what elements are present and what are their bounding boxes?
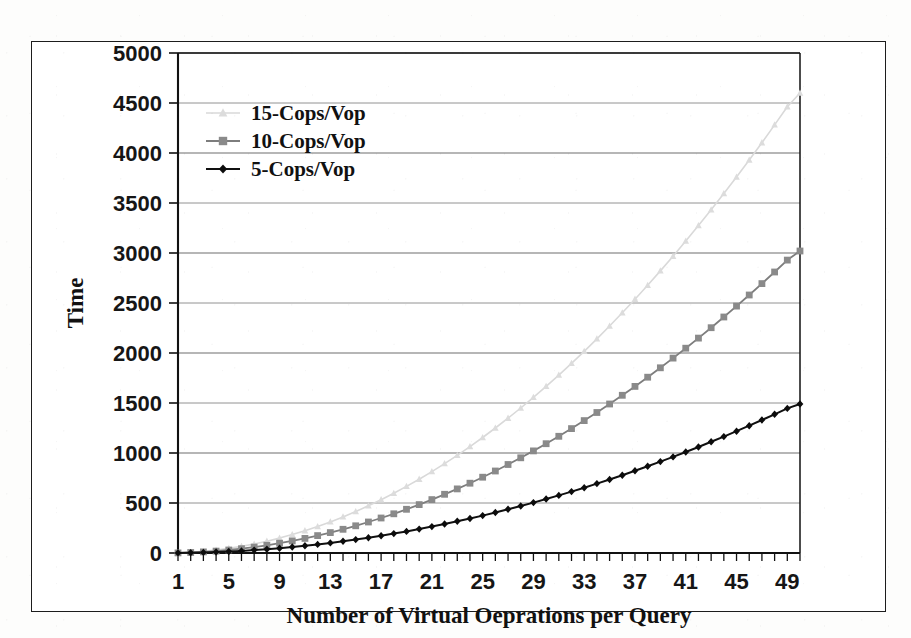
data-point-marker [467,443,474,449]
data-point-marker [657,458,664,465]
data-point-marker [479,474,486,481]
x-axis-tick-label: 25 [470,569,494,594]
data-point-marker [479,512,486,519]
data-point-marker [695,335,702,342]
series-3 [175,400,804,556]
data-point-marker [352,522,359,529]
y-axis-tick-label: 4000 [113,141,162,166]
y-axis-tick-label: 3500 [113,191,162,216]
data-point-marker [289,538,296,545]
x-axis-tick-label: 29 [521,569,545,594]
data-point-marker [657,364,664,371]
series-2 [175,248,804,557]
data-point-marker [682,345,689,352]
data-point-marker [378,515,385,522]
y-axis-tick-label: 0 [150,541,162,566]
data-point-marker [378,532,385,539]
data-point-marker [454,518,461,525]
data-point-marker [352,536,359,543]
data-point-marker [797,400,804,407]
x-axis-tick-label: 9 [273,569,285,594]
legend-entry-label: 15-Cops/Vop [251,101,366,125]
data-point-marker [543,495,550,502]
y-axis-tick-label: 5000 [113,41,162,66]
data-point-marker [797,248,804,255]
data-point-marker [340,538,347,545]
x-axis-tick-label: 37 [623,569,647,594]
data-point-marker [441,520,448,527]
data-point-marker [759,280,766,287]
data-point-marker [708,324,715,331]
data-point-marker [467,480,474,487]
data-point-marker [593,409,600,416]
data-point-marker [530,499,537,506]
data-point-marker [619,472,626,479]
data-point-marker [454,486,461,493]
data-point-marker [365,519,372,526]
x-axis-tick-label: 5 [223,569,235,594]
data-point-marker [327,529,334,536]
data-point-marker [517,502,524,509]
data-point-marker [505,506,512,513]
data-point-marker [492,509,499,516]
data-point-marker [416,525,423,532]
data-point-marker [759,416,766,423]
data-point-marker [644,463,651,470]
data-point-marker [302,535,309,542]
data-point-marker [784,257,791,264]
data-point-marker [467,515,474,522]
x-axis-tick-label: 21 [420,569,444,594]
data-point-marker [403,528,410,535]
data-point-marker [594,480,601,487]
data-point-marker [670,355,677,362]
data-point-marker [695,443,702,450]
data-point-marker [219,137,227,145]
x-axis-tick-label: 49 [775,569,799,594]
line-chart: 0500100015002000250030003500400045005000… [0,0,911,638]
data-point-marker [416,476,423,482]
figure-root: 0500100015002000250030003500400045005000… [0,0,911,638]
data-point-marker [733,303,740,310]
legend: 15-Cops/Vop10-Cops/Vop5-Cops/Vop [206,101,366,181]
data-point-marker [568,488,575,495]
legend-entry-label: 5-Cops/Vop [251,157,355,181]
x-axis-tick-label: 13 [318,569,342,594]
data-point-marker [492,468,499,475]
y-axis-tick-label: 4500 [113,91,162,116]
data-point-marker [302,542,309,549]
data-point-marker [555,492,562,499]
data-point-marker [441,460,448,466]
data-point-marker [429,523,436,530]
data-point-marker [314,532,321,539]
data-point-marker [797,89,804,95]
data-point-marker [416,501,423,508]
data-point-marker [314,541,321,548]
data-point-marker [289,543,296,550]
y-axis-tick-label: 2000 [113,341,162,366]
x-axis-tick-label: 41 [674,569,698,594]
y-axis-tick-label: 3000 [113,241,162,266]
data-point-marker [708,438,715,445]
data-point-marker [505,461,512,468]
data-point-marker [219,164,227,173]
x-axis-tick-label: 45 [724,569,748,594]
data-point-marker [771,269,778,276]
data-point-marker [403,506,410,513]
series-line [178,404,800,553]
data-point-marker [733,428,740,435]
data-point-marker [568,425,575,432]
x-axis-tick-label: 1 [172,569,184,594]
data-point-marker [581,417,588,424]
data-point-marker [365,534,372,541]
data-point-marker [327,539,334,546]
data-point-marker [530,448,537,455]
data-point-marker [644,374,651,381]
data-point-marker [784,405,791,412]
y-axis-tick-label: 1000 [113,441,162,466]
data-point-marker [543,440,550,447]
data-point-marker [606,401,613,408]
data-point-marker [682,448,689,455]
data-point-marker [340,526,347,533]
data-point-marker [606,476,613,483]
data-point-marker [632,467,639,474]
